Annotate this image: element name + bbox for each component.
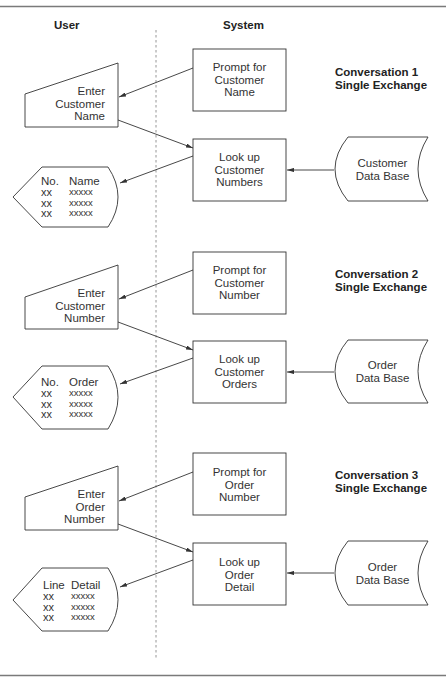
prompt-text-2: Prompt for Customer Number — [193, 264, 286, 302]
lookup-text-2: Look up Customer Orders — [193, 353, 286, 391]
lane-header-user: User — [54, 19, 80, 31]
input-text-2: Enter Customer Number — [40, 287, 105, 325]
prompt-text-3: Prompt for Order Number — [193, 466, 286, 504]
arrow-lookup-to-display-1 — [120, 156, 193, 183]
database-text-1: Customer Data Base — [340, 157, 425, 182]
display-table-1: No.Name xxxxxxx xxxxxxx xxxxxxx — [41, 175, 100, 219]
database-text-3: Order Data Base — [340, 561, 425, 586]
arrow-input-to-lookup-2 — [118, 322, 193, 350]
arrow-input-to-lookup-1 — [118, 120, 193, 148]
conversation-label-1: Conversation 1 Single Exchange — [335, 66, 427, 92]
display-table-2: No.Order xxxxxxx xxxxxxx xxxxxxx — [41, 376, 98, 420]
lane-header-system: System — [223, 19, 264, 31]
database-text-2: Order Data Base — [340, 359, 425, 384]
arrow-lookup-to-display-3 — [120, 560, 193, 587]
input-text-3: Enter Order Number — [40, 488, 105, 526]
arrow-lookup-to-display-2 — [120, 358, 193, 384]
lookup-text-3: Look up Order Detail — [193, 556, 286, 594]
prompt-text-1: Prompt for Customer Name — [193, 61, 286, 99]
conversation-label-2: Conversation 2 Single Exchange — [335, 268, 427, 294]
conversation-label-3: Conversation 3 Single Exchange — [335, 469, 427, 495]
flowchart-diagram: User System Conversation 1 Single Exchan… — [0, 0, 446, 677]
display-table-3: LineDetail xxxxxxx xxxxxxx xxxxxxx — [43, 579, 100, 623]
input-text-1: Enter Customer Name — [40, 85, 105, 123]
arrow-input-to-lookup-3 — [118, 524, 193, 552]
arrow-prompt-to-input-2 — [119, 270, 193, 299]
lookup-text-1: Look up Customer Numbers — [193, 151, 286, 189]
